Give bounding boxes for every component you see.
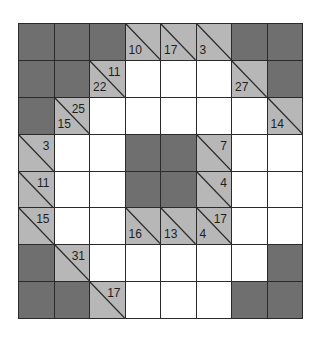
entry-cell[interactable]: [126, 282, 161, 318]
across-sum: 4: [220, 177, 227, 189]
down-sum: 27: [235, 81, 248, 93]
entry-cell[interactable]: [161, 245, 196, 281]
clue-cell: 27: [232, 61, 267, 97]
clue-cell: 174: [197, 208, 232, 244]
across-sum: 25: [72, 103, 85, 115]
entry-cell[interactable]: [161, 98, 196, 134]
entry-cell[interactable]: [90, 172, 125, 208]
entry-cell[interactable]: [268, 172, 303, 208]
block-cell: [268, 24, 303, 60]
entry-cell[interactable]: [55, 135, 90, 171]
across-sum: 7: [220, 140, 227, 152]
entry-cell[interactable]: [126, 245, 161, 281]
entry-cell[interactable]: [197, 98, 232, 134]
entry-cell[interactable]: [232, 208, 267, 244]
clue-cell: 14: [268, 98, 303, 134]
down-sum: 3: [200, 44, 207, 56]
block-cell: [55, 282, 90, 318]
clue-cell: 17: [161, 24, 196, 60]
across-sum: 11: [108, 66, 120, 78]
down-sum: 14: [271, 118, 284, 130]
across-sum: 3: [43, 140, 50, 152]
clue-cell: 3: [19, 135, 54, 171]
entry-cell[interactable]: [126, 61, 161, 97]
entry-cell[interactable]: [161, 282, 196, 318]
entry-cell[interactable]: [268, 208, 303, 244]
clue-cell: 17: [90, 282, 125, 318]
block-cell: [268, 245, 303, 281]
entry-cell[interactable]: [55, 208, 90, 244]
across-sum: 11: [37, 177, 49, 189]
clue-cell: 1122: [90, 61, 125, 97]
block-cell: [161, 172, 196, 208]
down-sum: 15: [58, 118, 71, 130]
block-cell: [19, 61, 54, 97]
block-cell: [268, 282, 303, 318]
clue-cell: 11: [19, 172, 54, 208]
entry-cell[interactable]: [197, 245, 232, 281]
entry-cell[interactable]: [197, 282, 232, 318]
down-sum: 16: [129, 228, 142, 240]
entry-cell[interactable]: [232, 98, 267, 134]
entry-cell[interactable]: [197, 61, 232, 97]
block-cell: [19, 245, 54, 281]
block-cell: [19, 282, 54, 318]
entry-cell[interactable]: [90, 98, 125, 134]
clue-cell: 16: [126, 208, 161, 244]
entry-cell[interactable]: [90, 135, 125, 171]
down-sum: 22: [93, 81, 106, 93]
across-sum: 17: [214, 213, 227, 225]
kakuro-grid: 10173112227251514371141516131743117: [18, 23, 303, 319]
clue-cell: 7: [197, 135, 232, 171]
block-cell: [55, 61, 90, 97]
entry-cell[interactable]: [126, 98, 161, 134]
block-cell: [126, 172, 161, 208]
clue-cell: 13: [161, 208, 196, 244]
entry-cell[interactable]: [90, 245, 125, 281]
block-cell: [19, 98, 54, 134]
across-sum: 15: [36, 213, 49, 225]
down-sum: 17: [164, 44, 177, 56]
down-sum: 4: [200, 228, 207, 240]
block-cell: [126, 135, 161, 171]
block-cell: [55, 24, 90, 60]
block-cell: [161, 135, 196, 171]
block-cell: [19, 24, 54, 60]
block-cell: [268, 61, 303, 97]
clue-cell: 15: [19, 208, 54, 244]
entry-cell[interactable]: [55, 172, 90, 208]
block-cell: [90, 24, 125, 60]
entry-cell[interactable]: [268, 135, 303, 171]
entry-cell[interactable]: [232, 135, 267, 171]
entry-cell[interactable]: [90, 208, 125, 244]
entry-cell[interactable]: [161, 61, 196, 97]
entry-cell[interactable]: [232, 172, 267, 208]
down-sum: 10: [129, 44, 142, 56]
down-sum: 13: [164, 228, 177, 240]
clue-cell: 10: [126, 24, 161, 60]
clue-cell: 31: [55, 245, 90, 281]
block-cell: [232, 282, 267, 318]
across-sum: 31: [72, 250, 85, 262]
clue-cell: 4: [197, 172, 232, 208]
across-sum: 17: [107, 287, 120, 299]
entry-cell[interactable]: [232, 245, 267, 281]
clue-cell: 3: [197, 24, 232, 60]
block-cell: [232, 24, 267, 60]
clue-cell: 2515: [55, 98, 90, 134]
